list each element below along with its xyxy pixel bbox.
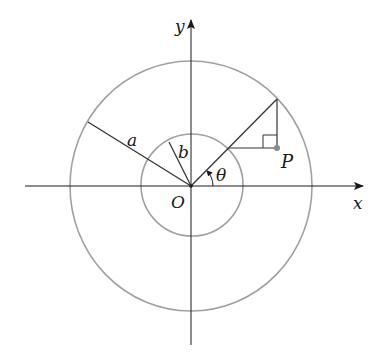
point-p-label: P: [280, 151, 294, 172]
diagram-canvas: y x O a b θ P: [0, 0, 382, 364]
x-axis-label: x: [353, 193, 363, 213]
point-p: [274, 145, 280, 151]
diagram-svg: y x O a b θ P: [0, 0, 382, 364]
origin-label: O: [171, 192, 185, 212]
theta-ray: [191, 99, 277, 186]
y-axis-label: y: [174, 16, 185, 36]
radius-b-label: b: [178, 142, 189, 162]
radius-a-label: a: [127, 130, 137, 150]
origin-dot: [189, 184, 193, 188]
theta-arc: [207, 171, 213, 186]
angle-theta-label: θ: [216, 165, 226, 185]
